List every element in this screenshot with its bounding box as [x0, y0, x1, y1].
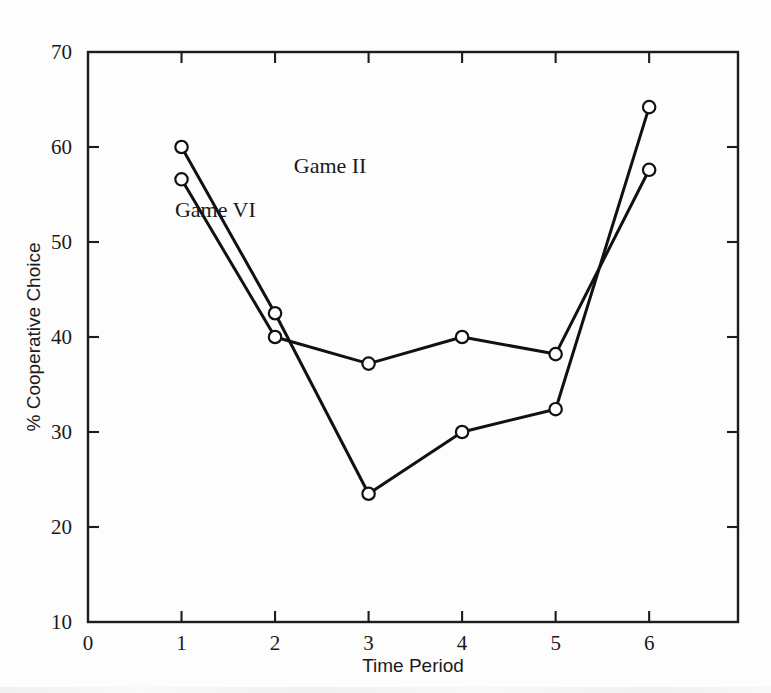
data-point-marker [269, 307, 281, 319]
x-tick-label-4: 4 [457, 631, 468, 655]
x-tick-label-1: 1 [176, 631, 187, 655]
y-tick-label-40: 40 [51, 325, 72, 349]
series-label-game-vi: Game VI [175, 197, 256, 222]
y-tick-label-50: 50 [51, 230, 72, 254]
data-point-marker [175, 141, 187, 153]
line-chart: 0123456 10203040506070 Game IIGame VI Ti… [0, 0, 771, 693]
x-tick-label-3: 3 [363, 631, 374, 655]
y-tick-label-20: 20 [51, 515, 72, 539]
page-edge-artifact [0, 687, 771, 693]
x-tick-label-2: 2 [270, 631, 281, 655]
y-tick-label-60: 60 [51, 135, 72, 159]
data-point-marker [549, 403, 561, 415]
x-tick-label-6: 6 [644, 631, 655, 655]
x-tick-labels: 0123456 [83, 631, 655, 655]
y-tick-label-10: 10 [51, 610, 72, 634]
data-point-marker [269, 331, 281, 343]
y-axis-title: % Cooperative Choice [23, 242, 44, 431]
x-axis-title: Time Period [362, 655, 464, 676]
figure-canvas: 0123456 10203040506070 Game IIGame VI Ti… [0, 0, 771, 693]
data-point-marker [643, 101, 655, 113]
data-point-marker [362, 488, 374, 500]
y-tick-labels: 10203040506070 [51, 40, 72, 634]
data-series-group [175, 101, 655, 500]
data-point-marker [362, 357, 374, 369]
series-label-game-ii: Game II [294, 153, 367, 178]
x-tick-label-5: 5 [550, 631, 561, 655]
data-point-marker [456, 426, 468, 438]
data-point-marker [456, 331, 468, 343]
data-point-marker [643, 164, 655, 176]
y-tick-label-30: 30 [51, 420, 72, 444]
x-tick-label-0: 0 [83, 631, 94, 655]
data-point-marker [549, 348, 561, 360]
data-point-marker [175, 173, 187, 185]
y-tick-label-70: 70 [51, 40, 72, 64]
